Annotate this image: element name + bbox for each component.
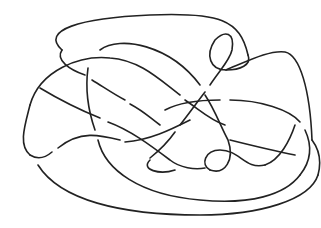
knot-strand-segment [130, 104, 160, 125]
knot-strands [23, 14, 319, 215]
knot-diagram [0, 0, 321, 228]
knot-strand-segment [30, 152, 52, 158]
knot-strand-segment [58, 135, 120, 148]
knot-strand-segment [147, 160, 175, 172]
knot-strand-segment [230, 100, 300, 122]
knot-strand-segment [30, 58, 180, 105]
knot-strand-segment [180, 92, 205, 125]
knot-strand-segment [92, 80, 125, 100]
knot-strand-segment [205, 150, 265, 170]
knot-strand-segment [23, 105, 30, 155]
knot-strand-segment [205, 95, 230, 171]
knot-strand-segment [300, 130, 310, 175]
knot-strand-segment [265, 125, 295, 165]
knot-strand-segment [38, 165, 318, 215]
knot-strand-segment [100, 43, 200, 85]
knot-strand-segment [108, 122, 205, 169]
knot-strand-segment [40, 88, 100, 118]
knot-strand-segment [312, 140, 320, 175]
knot-strand-segment [226, 52, 312, 140]
knot-strand-segment [87, 68, 95, 130]
